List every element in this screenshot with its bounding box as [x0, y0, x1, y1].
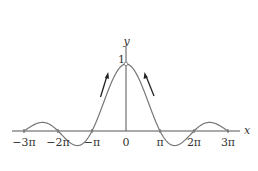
x-tick-label: −2π	[46, 136, 69, 149]
x-axis-label: x	[244, 124, 251, 137]
y-axis-label: y	[123, 35, 131, 48]
x-tick-label: 2π	[187, 136, 201, 149]
x-tick-labels: −3π−2π−π0π2π3π	[12, 136, 235, 149]
y-tick-1: 1	[118, 53, 125, 66]
x-tick-label: π	[156, 136, 163, 149]
x-tick-label: 0	[123, 136, 130, 149]
plot-area: x y 1 −3π−2π−π0π2π3π	[0, 0, 258, 171]
x-tick-label: −π	[84, 136, 100, 149]
x-tick-label: 3π	[221, 136, 235, 149]
sinc-chart: x y 1 −3π−2π−π0π2π3π	[0, 0, 258, 171]
x-tick-label: −3π	[12, 136, 35, 149]
